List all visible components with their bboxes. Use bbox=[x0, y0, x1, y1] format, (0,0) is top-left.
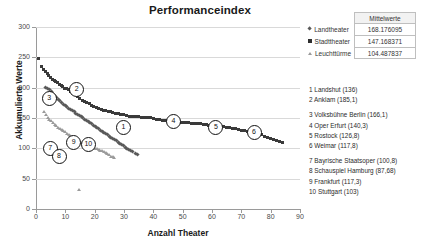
annotation-item: 7 Bayrische Staatsoper (100,8) bbox=[309, 156, 427, 166]
triangle-marker-icon bbox=[308, 52, 312, 55]
annotation-item: 2 Anklam (185,1) bbox=[309, 95, 427, 105]
x-tick-mark bbox=[271, 209, 272, 213]
legend: Mittelwerte Landtheater168.176095Stadtth… bbox=[306, 12, 424, 59]
x-tick-mark bbox=[65, 209, 66, 213]
legend-mean-value: 147.168371 bbox=[354, 35, 416, 47]
y-tick-label: 0 bbox=[4, 205, 30, 212]
data-point bbox=[281, 141, 284, 144]
legend-row: Stadttheater147.168371 bbox=[306, 35, 424, 47]
legend-header: Mittelwerte bbox=[354, 12, 416, 23]
x-tick-label: 70 bbox=[231, 213, 251, 220]
x-tick-mark bbox=[300, 209, 301, 213]
annotation-item: 6 Weimar (117,8) bbox=[309, 141, 427, 151]
x-tick-mark bbox=[95, 209, 96, 213]
x-tick-label: 30 bbox=[114, 213, 134, 220]
annotation-item: 10 Stuttgart (103) bbox=[309, 187, 427, 197]
x-tick-mark bbox=[183, 209, 184, 213]
y-tick-mark bbox=[32, 88, 36, 89]
x-tick-label: 90 bbox=[290, 213, 310, 220]
x-tick-mark bbox=[124, 209, 125, 213]
x-tick-mark bbox=[36, 209, 37, 213]
y-tick-mark bbox=[32, 148, 36, 149]
x-tick-mark bbox=[212, 209, 213, 213]
legend-key: Leuchttürme bbox=[306, 47, 354, 59]
callout-marker-10[interactable]: 10 bbox=[81, 137, 96, 152]
y-tick-mark bbox=[32, 179, 36, 180]
callout-marker-6[interactable]: 6 bbox=[247, 125, 262, 140]
y-tick-mark bbox=[32, 118, 36, 119]
callout-marker-9[interactable]: 9 bbox=[66, 135, 81, 150]
x-tick-label: 0 bbox=[26, 213, 46, 220]
callout-marker-1[interactable]: 1 bbox=[116, 120, 131, 135]
legend-mean-value: 168.176095 bbox=[354, 23, 416, 35]
data-point bbox=[37, 57, 40, 60]
annotation-item: 1 Landshut (136) bbox=[309, 85, 427, 95]
x-axis-line bbox=[36, 209, 301, 210]
chart-container: Performanceindex 050100150200250300 0102… bbox=[0, 0, 427, 248]
x-tick-label: 60 bbox=[202, 213, 222, 220]
y-tick-label: 300 bbox=[4, 23, 30, 30]
annotation-group-1: 1 Landshut (136)2 Anklam (185,1) bbox=[309, 85, 427, 105]
legend-series-label: Landtheater bbox=[314, 26, 349, 33]
x-tick-label: 10 bbox=[55, 213, 75, 220]
legend-series-label: Leuchttürme bbox=[315, 50, 351, 57]
callout-marker-8[interactable]: 8 bbox=[52, 149, 67, 164]
y-tick-label: 50 bbox=[4, 175, 30, 182]
annotation-item: 4 Oper Erfurt (140,3) bbox=[309, 121, 427, 131]
y-axis-title: Akkumulierte Werte bbox=[14, 40, 24, 160]
grid-line bbox=[36, 27, 300, 28]
data-point bbox=[112, 156, 116, 159]
y-tick-mark bbox=[32, 57, 36, 58]
legend-row: Landtheater168.176095 bbox=[306, 23, 424, 35]
x-tick-mark bbox=[153, 209, 154, 213]
callout-marker-4[interactable]: 4 bbox=[166, 114, 181, 129]
grid-line bbox=[36, 57, 300, 58]
x-tick-mark bbox=[241, 209, 242, 213]
annotation-list: 1 Landshut (136)2 Anklam (185,1) 3 Volks… bbox=[309, 85, 427, 202]
annotation-item: 8 Schauspiel Hamburg (87,68) bbox=[309, 166, 427, 176]
chart-title: Performanceindex bbox=[100, 4, 300, 16]
annotation-item: 9 Frankfurt (117,3) bbox=[309, 177, 427, 187]
x-tick-label: 40 bbox=[143, 213, 163, 220]
annotation-item: 5 Rostock (126,8) bbox=[309, 131, 427, 141]
legend-key: Landtheater bbox=[306, 23, 354, 35]
x-axis-title: Anzahl Theater bbox=[118, 228, 238, 238]
grid-line bbox=[36, 179, 300, 180]
y-tick-mark bbox=[32, 27, 36, 28]
legend-mean-value: 104.487837 bbox=[354, 47, 416, 59]
x-tick-label: 50 bbox=[173, 213, 193, 220]
data-point bbox=[77, 188, 81, 191]
annotation-group-3: 7 Bayrische Staatsoper (100,8)8 Schauspi… bbox=[309, 156, 427, 197]
annotation-group-2: 3 Volksbühne Berlin (166,1)4 Oper Erfurt… bbox=[309, 110, 427, 151]
x-tick-label: 20 bbox=[85, 213, 105, 220]
diamond-marker-icon bbox=[307, 27, 312, 32]
square-marker-icon bbox=[308, 39, 312, 43]
legend-key: Stadttheater bbox=[306, 35, 354, 47]
legend-row: Leuchttürme104.487837 bbox=[306, 47, 424, 59]
annotation-item: 3 Volksbühne Berlin (166,1) bbox=[309, 110, 427, 120]
legend-series-label: Stadttheater bbox=[315, 38, 350, 45]
x-tick-label: 80 bbox=[261, 213, 281, 220]
